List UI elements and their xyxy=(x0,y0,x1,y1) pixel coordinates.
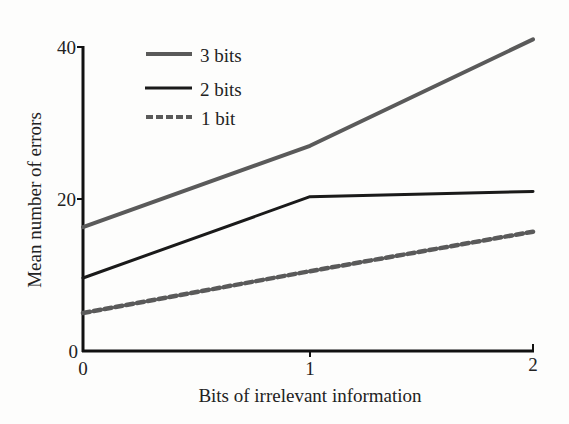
legend: 3 bits 2 bits 1 bit xyxy=(145,45,242,129)
y-tick-label-40: 40 xyxy=(57,37,76,58)
legend-label-1-bit: 1 bit xyxy=(201,108,236,129)
series-1-bit xyxy=(83,232,533,313)
x-axis-title: Bits of irrelevant information xyxy=(198,385,422,406)
axes xyxy=(77,46,534,357)
legend-label-2-bits: 2 bits xyxy=(200,79,242,100)
x-tick-label-1: 1 xyxy=(305,358,315,379)
legend-label-3-bits: 3 bits xyxy=(200,45,242,66)
legend-item-3-bits: 3 bits xyxy=(146,45,242,66)
line-chart: 40 20 0 0 1 2 Bits of irrelevant informa… xyxy=(0,0,569,424)
x-tick-label-2: 2 xyxy=(528,354,538,375)
legend-item-1-bit: 1 bit xyxy=(146,108,236,129)
x-tick-label-0: 0 xyxy=(78,358,88,379)
y-axis-title: Mean number of errors xyxy=(24,112,45,288)
legend-item-2-bits: 2 bits xyxy=(145,79,242,100)
y-tick-label-0: 0 xyxy=(69,341,79,362)
y-tick-label-20: 20 xyxy=(57,189,76,210)
